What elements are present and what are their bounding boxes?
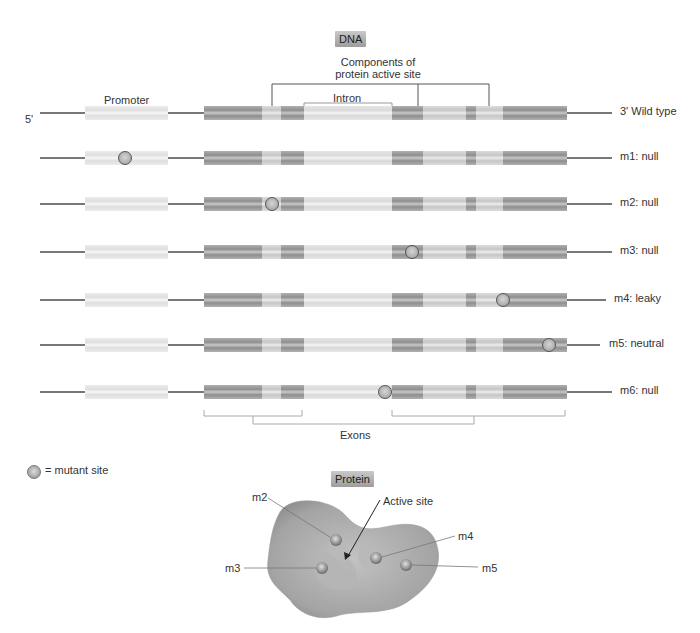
row-label: m5: neutral xyxy=(609,337,664,349)
exon-segment xyxy=(503,245,567,259)
intron-segment xyxy=(304,106,392,120)
intron-segment xyxy=(304,151,392,165)
protein-mutation-m5 xyxy=(400,559,412,571)
exon-segment xyxy=(423,106,466,120)
promoter-label: Promoter xyxy=(104,94,149,106)
spacer-line xyxy=(168,299,204,301)
exon-segment xyxy=(392,197,423,211)
exon-segment xyxy=(204,385,262,399)
protein-mutation-m4 xyxy=(370,552,382,564)
exon-segment xyxy=(204,338,262,352)
exons-label: Exons xyxy=(340,429,371,441)
exon-segment xyxy=(262,106,281,120)
exon-segment xyxy=(466,197,476,211)
mutation-site-marker xyxy=(265,197,279,211)
promoter-segment xyxy=(85,245,168,259)
row-label: 3' Wild type xyxy=(620,105,677,117)
exon-segment xyxy=(476,338,503,352)
exon-segment xyxy=(476,106,503,120)
exon-segment xyxy=(281,197,304,211)
protein-diagram xyxy=(220,460,500,633)
protein-mutation-m2 xyxy=(330,534,342,546)
spacer-line xyxy=(168,157,204,159)
exon-segment xyxy=(204,151,262,165)
exon-segment xyxy=(281,245,304,259)
exon-segment xyxy=(262,245,281,259)
spacer-line xyxy=(168,344,204,346)
promoter-segment xyxy=(85,106,168,120)
exon-segment xyxy=(392,151,423,165)
gene-row-5: m5: neutral xyxy=(0,338,700,354)
exon-segment xyxy=(466,293,476,307)
promoter-segment xyxy=(85,293,168,307)
gene-row-1: m1: null xyxy=(0,151,700,167)
downstream-line xyxy=(567,344,600,346)
exon-segment xyxy=(262,385,281,399)
protein-label-m2: m2 xyxy=(252,491,267,503)
mutation-site-marker xyxy=(496,293,510,307)
exon-segment xyxy=(503,385,567,399)
exon-segment xyxy=(262,293,281,307)
exon-segment xyxy=(476,151,503,165)
exon-segment xyxy=(503,151,567,165)
mutation-site-marker xyxy=(118,151,132,165)
exon-segment xyxy=(503,106,567,120)
intron-segment xyxy=(304,245,392,259)
exon-segment xyxy=(423,197,466,211)
exon-segment xyxy=(392,293,423,307)
intron-segment xyxy=(304,197,392,211)
upstream-line xyxy=(40,391,85,393)
exon-segment xyxy=(281,293,304,307)
downstream-line xyxy=(567,251,612,253)
protein-mutation-m3 xyxy=(316,562,328,574)
intron-label: Intron xyxy=(333,92,361,104)
exon-segment xyxy=(466,338,476,352)
upstream-line xyxy=(40,157,85,159)
gene-row-4: m4: leaky xyxy=(0,293,700,309)
downstream-line xyxy=(567,299,606,301)
row-label: m1: null xyxy=(620,150,659,162)
exon-segment xyxy=(392,385,423,399)
exon-segment xyxy=(392,106,423,120)
exon-segment xyxy=(466,106,476,120)
exon-segment xyxy=(423,293,466,307)
exon-segment xyxy=(476,245,503,259)
upstream-line xyxy=(40,112,85,114)
intron-segment xyxy=(304,293,392,307)
row-label: m4: leaky xyxy=(614,292,661,304)
protein-body xyxy=(268,501,439,618)
exon-segment xyxy=(503,197,567,211)
exon-segment xyxy=(423,385,466,399)
gene-row-3: m3: null xyxy=(0,245,700,261)
promoter-segment xyxy=(85,197,168,211)
exon-segment xyxy=(476,197,503,211)
exon-segment xyxy=(281,106,304,120)
exon-segment xyxy=(503,293,567,307)
row-label: m6: null xyxy=(620,384,659,396)
exon-segment xyxy=(423,338,466,352)
intron-segment xyxy=(304,338,392,352)
gene-row-2: m2: null xyxy=(0,197,700,213)
upstream-line xyxy=(40,251,85,253)
exon-segment xyxy=(204,293,262,307)
downstream-line xyxy=(567,203,612,205)
spacer-line xyxy=(168,203,204,205)
exon-segment xyxy=(466,245,476,259)
legend-text: = mutant site xyxy=(45,464,108,476)
spacer-line xyxy=(168,112,204,114)
exon-segment xyxy=(204,245,262,259)
spacer-line xyxy=(168,251,204,253)
exon-segment xyxy=(423,151,466,165)
protein-label-m4: m4 xyxy=(458,530,473,542)
protein-label-m3: m3 xyxy=(225,562,240,574)
exon-segment xyxy=(262,338,281,352)
mutation-site-marker xyxy=(405,245,419,259)
exon-segment xyxy=(281,385,304,399)
exon-segment xyxy=(466,385,476,399)
promoter-segment xyxy=(85,338,168,352)
upstream-line xyxy=(40,203,85,205)
exon-segment xyxy=(204,106,262,120)
exon-segment xyxy=(281,151,304,165)
exon-segment xyxy=(392,338,423,352)
exon-segment xyxy=(503,338,567,352)
